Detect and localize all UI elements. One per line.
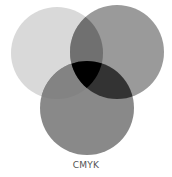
diagram-label: CMYK: [0, 160, 172, 170]
cmyk-venn-diagram: [0, 0, 172, 160]
